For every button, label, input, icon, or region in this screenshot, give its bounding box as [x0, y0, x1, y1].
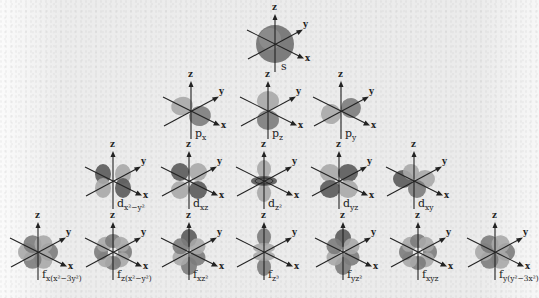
f6b-orbital-icon	[343, 252, 344, 253]
orbital-label-subscript: x²−y²	[124, 203, 145, 212]
z-axis-label: z	[188, 69, 193, 79]
orbital-label-subscript: z³	[272, 274, 279, 283]
y-axis-label: y	[141, 156, 146, 166]
dx2y2-orbital-icon	[113, 181, 114, 182]
f6-orbital-icon	[38, 252, 39, 253]
orbital-label-subscript: xyz	[426, 274, 438, 283]
orbital-label-main: p	[195, 127, 202, 140]
y-axis-label: y	[66, 227, 71, 237]
y-axis-label: y	[217, 227, 222, 237]
orbital-label-main: s	[281, 60, 287, 73]
orbital-label-main: d	[117, 197, 124, 210]
y-axis-label: y	[292, 156, 297, 166]
x-axis-label: x	[219, 261, 224, 271]
px-orbital-icon	[191, 111, 192, 112]
orbital-label-subscript: x(x²−3y²)	[46, 274, 82, 283]
orbital-label: dz²	[268, 197, 282, 212]
z-axis-label: z	[411, 139, 416, 149]
z-axis-label: z	[265, 69, 270, 79]
orbital-label: fz(x²−y²)	[117, 268, 152, 283]
z-axis-label: z	[186, 139, 191, 149]
fz3-orbital-icon	[264, 252, 265, 253]
x-axis-label: x	[369, 190, 374, 200]
f8-orbital-icon	[113, 252, 114, 253]
orbital-label-main: d	[193, 197, 200, 210]
orbital-label-subscript: x	[202, 133, 206, 142]
orbital-label-subscript: z(x²−y²)	[121, 274, 152, 283]
orbital-label: fx(x²−3y²)	[42, 268, 82, 283]
pz-orbital-icon	[268, 111, 269, 112]
orbital-label: dxz	[193, 197, 208, 212]
orbital-label: dyz	[343, 197, 358, 212]
x-axis-label: x	[305, 53, 310, 63]
py-orbital-icon	[341, 111, 342, 112]
x-axis-label: x	[373, 261, 378, 271]
orbital-label-subscript: z	[279, 133, 283, 142]
x-axis-label: x	[448, 261, 453, 271]
z-axis-label: z	[492, 210, 497, 220]
y-axis-label: y	[217, 156, 222, 166]
orbital-label-main: d	[343, 197, 350, 210]
y-axis-label: y	[446, 227, 451, 237]
y-axis-label: y	[292, 227, 297, 237]
orbital-label: fxz²	[193, 268, 208, 283]
orbital-label-subscript: xz²	[197, 274, 208, 283]
orbital-label-main: p	[345, 127, 352, 140]
dyz-orbital-icon	[339, 181, 340, 182]
z-axis-label: z	[110, 210, 115, 220]
f6-orbital-icon	[495, 252, 496, 253]
z-axis-label: z	[338, 69, 343, 79]
orbital-label: dxy	[418, 197, 434, 212]
dxz-orbital-icon	[189, 181, 190, 182]
y-axis-label: y	[303, 19, 308, 29]
orbital-label-subscript: yz	[350, 203, 358, 212]
z-axis-label: z	[415, 210, 420, 220]
y-axis-label: y	[141, 227, 146, 237]
x-axis-label: x	[219, 190, 224, 200]
sphere-orbital-icon	[275, 44, 276, 45]
orbital-label: py	[345, 127, 356, 142]
x-axis-label: x	[371, 120, 376, 130]
x-axis-label: x	[444, 190, 449, 200]
orbital-label-subscript: y	[352, 133, 356, 142]
orbital-label: fy(y²−3x²)	[499, 268, 539, 283]
z-axis-label: z	[110, 139, 115, 149]
orbital-label-main: d	[268, 197, 275, 210]
y-axis-label: y	[523, 227, 528, 237]
y-axis-label: y	[296, 86, 301, 96]
orbital-label-subscript: y(y²−3x²)	[503, 274, 539, 283]
y-axis-label: y	[367, 156, 372, 166]
y-axis-label: y	[369, 86, 374, 96]
orbital-label-subscript: xy	[425, 203, 433, 212]
orbital-label: dx²−y²	[117, 197, 145, 212]
z-axis-label: z	[261, 210, 266, 220]
z-axis-label: z	[336, 139, 341, 149]
y-axis-label: y	[219, 86, 224, 96]
x-axis-label: x	[294, 190, 299, 200]
orbital-label: s	[281, 60, 287, 73]
z-axis-label: z	[186, 210, 191, 220]
f6b-orbital-icon	[189, 252, 190, 253]
y-axis-label: y	[371, 227, 376, 237]
z-axis-label: z	[272, 2, 277, 12]
y-axis-label: y	[442, 156, 447, 166]
z-axis-label: z	[340, 210, 345, 220]
orbital-label: fyz²	[347, 268, 362, 283]
orbital-label: fxyz	[422, 268, 439, 283]
orbital-label-subscript: z²	[275, 203, 282, 212]
f8-orbital-icon	[418, 252, 419, 253]
x-axis-label: x	[294, 261, 299, 271]
orbital-label: fz³	[268, 268, 279, 283]
dxy-orbital-icon	[414, 181, 415, 182]
orbital-label: pz	[272, 127, 283, 142]
dz2-orbital-icon	[264, 181, 265, 182]
orbital-label-main: p	[272, 127, 279, 140]
z-axis-label: z	[35, 210, 40, 220]
z-axis-label: z	[261, 139, 266, 149]
orbital-label: px	[195, 127, 206, 142]
orbital-label-subscript: yz²	[351, 274, 362, 283]
orbital-label-subscript: xz	[200, 203, 208, 212]
orbital-label-main: d	[418, 197, 425, 210]
x-axis-label: x	[221, 120, 226, 130]
x-axis-label: x	[298, 120, 303, 130]
